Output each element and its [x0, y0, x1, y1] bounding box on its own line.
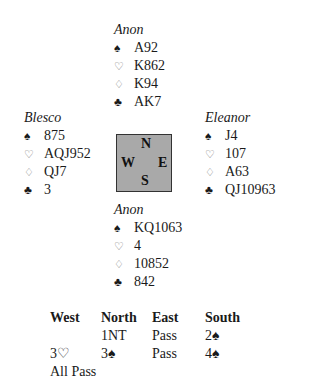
bid: 1NT — [101, 327, 127, 345]
east-spades-cards: J4 — [225, 128, 237, 143]
south-player-name: Anon — [114, 201, 182, 219]
south-hearts-cards: 4 — [134, 238, 141, 253]
spade-icon: ♠ — [114, 39, 134, 57]
north-hand: Anon ♠A92 ♡K862 ♢K94 ♣AK7 — [114, 21, 165, 111]
north-clubs-cards: AK7 — [134, 94, 161, 109]
spade-icon: ♠ — [24, 127, 44, 145]
east-hand: Eleanor ♠J4 ♡107 ♢A63 ♣QJ10963 — [205, 109, 276, 199]
heart-icon: ♡ — [114, 237, 134, 255]
compass-east: E — [158, 155, 167, 171]
north-hearts-cards: K862 — [134, 58, 165, 73]
compass-north: N — [141, 136, 151, 152]
west-diamonds: ♢QJ7 — [24, 163, 91, 181]
west-diamonds-cards: QJ7 — [44, 164, 67, 179]
diamond-icon: ♢ — [114, 75, 134, 93]
north-clubs: ♣AK7 — [114, 93, 165, 111]
north-diamonds: ♢K94 — [114, 75, 165, 93]
bid: Pass — [152, 327, 177, 345]
diamond-icon: ♢ — [24, 163, 44, 181]
west-player-name: Blesco — [24, 109, 91, 127]
compass-south: S — [141, 173, 149, 189]
east-player-name: Eleanor — [205, 109, 276, 127]
diamond-icon: ♢ — [114, 255, 134, 273]
south-diamonds-cards: 10852 — [134, 256, 169, 271]
club-icon: ♣ — [114, 273, 134, 291]
north-player-name: Anon — [114, 21, 165, 39]
spade-icon: ♠ — [205, 127, 225, 145]
east-spades: ♠J4 — [205, 127, 276, 145]
south-diamonds: ♢10852 — [114, 255, 182, 273]
north-spades-cards: A92 — [134, 40, 158, 55]
bid: All Pass — [50, 363, 96, 381]
header-east: East — [152, 309, 178, 327]
west-hearts-cards: AQJ952 — [44, 146, 91, 161]
spade-icon: ♠ — [114, 219, 134, 237]
bid: 3♠ — [101, 345, 115, 363]
bid: 2♠ — [205, 327, 219, 345]
club-icon: ♣ — [114, 93, 134, 111]
west-clubs-cards: 3 — [44, 182, 51, 197]
header-south: South — [205, 309, 240, 327]
west-clubs: ♣3 — [24, 181, 91, 199]
west-hearts: ♡AQJ952 — [24, 145, 91, 163]
club-icon: ♣ — [24, 181, 44, 199]
east-hearts-cards: 107 — [225, 146, 246, 161]
heart-icon: ♡ — [205, 145, 225, 163]
south-clubs: ♣842 — [114, 273, 182, 291]
south-spades: ♠KQ1063 — [114, 219, 182, 237]
north-diamonds-cards: K94 — [134, 76, 158, 91]
south-hand: Anon ♠KQ1063 ♡4 ♢10852 ♣842 — [114, 201, 182, 291]
east-clubs-cards: QJ10963 — [225, 182, 276, 197]
west-spades-cards: 875 — [44, 128, 65, 143]
bid: 3♡ — [50, 345, 70, 363]
east-diamonds-cards: A63 — [225, 164, 249, 179]
east-clubs: ♣QJ10963 — [205, 181, 276, 199]
heart-icon: ♡ — [24, 145, 44, 163]
west-spades: ♠875 — [24, 127, 91, 145]
north-spades: ♠A92 — [114, 39, 165, 57]
club-icon: ♣ — [205, 181, 225, 199]
header-west: West — [50, 309, 80, 327]
east-hearts: ♡107 — [205, 145, 276, 163]
south-hearts: ♡4 — [114, 237, 182, 255]
bid: 4♠ — [205, 345, 219, 363]
east-diamonds: ♢A63 — [205, 163, 276, 181]
header-north: North — [101, 309, 137, 327]
compass-west: W — [121, 155, 135, 171]
bid: Pass — [152, 345, 177, 363]
west-hand: Blesco ♠875 ♡AQJ952 ♢QJ7 ♣3 — [24, 109, 91, 199]
diamond-icon: ♢ — [205, 163, 225, 181]
south-clubs-cards: 842 — [134, 274, 155, 289]
compass-box: N W E S — [116, 134, 172, 192]
heart-icon: ♡ — [114, 57, 134, 75]
north-hearts: ♡K862 — [114, 57, 165, 75]
south-spades-cards: KQ1063 — [134, 220, 182, 235]
